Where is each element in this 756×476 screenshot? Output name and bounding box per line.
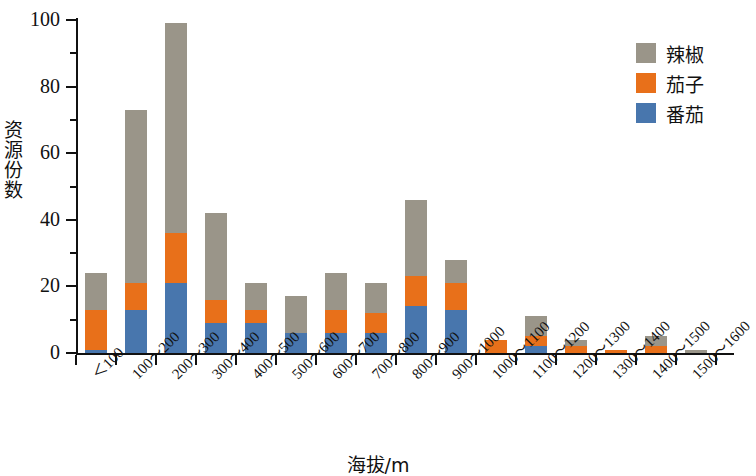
bar-segment-chili bbox=[125, 110, 147, 283]
stacked-bar-chart: 资源份数 020406080100 ＜100100～200200～300300～… bbox=[0, 0, 756, 476]
legend-item-1: 辣椒 bbox=[636, 38, 704, 68]
bar-segment-eggplant bbox=[405, 276, 427, 306]
bar-segment-chili bbox=[85, 273, 107, 310]
plot-area bbox=[76, 20, 716, 353]
bar-segment-chili bbox=[165, 23, 187, 233]
bar-segment-chili bbox=[205, 213, 227, 300]
bar-segment-chili bbox=[405, 200, 427, 277]
y-axis-tick bbox=[66, 352, 76, 354]
bar-segment-eggplant bbox=[245, 310, 267, 323]
y-axis-tick bbox=[66, 152, 76, 154]
bar-segment-eggplant bbox=[125, 283, 147, 310]
bar-segment-tomato bbox=[125, 310, 147, 353]
legend-swatch-icon bbox=[636, 103, 656, 123]
x-axis-tick bbox=[75, 355, 77, 365]
bar-segment-chili bbox=[445, 260, 467, 283]
legend-label: 茄子 bbox=[666, 70, 704, 97]
bar-2 bbox=[125, 110, 147, 353]
legend-item-2: 茄子 bbox=[636, 68, 704, 98]
bars-container bbox=[76, 20, 716, 353]
bar-segment-chili bbox=[365, 283, 387, 313]
bar-segment-eggplant bbox=[85, 310, 107, 350]
bar-segment-eggplant bbox=[445, 283, 467, 310]
bar-segment-chili bbox=[245, 283, 267, 310]
y-axis-tick-label: 60 bbox=[0, 142, 60, 162]
y-axis-tick-label: 0 bbox=[0, 342, 60, 362]
y-axis-tick-label: 80 bbox=[0, 76, 60, 96]
legend-label: 番茄 bbox=[666, 100, 704, 127]
y-axis-tick bbox=[66, 285, 76, 287]
y-axis-tick-label: 20 bbox=[0, 275, 60, 295]
y-axis-tick bbox=[66, 86, 76, 88]
legend-swatch-icon bbox=[636, 43, 656, 63]
legend-label: 辣椒 bbox=[666, 40, 704, 67]
legend-item-3: 番茄 bbox=[636, 98, 704, 128]
y-axis-tick bbox=[66, 219, 76, 221]
y-axis-tick-label: 100 bbox=[0, 9, 60, 29]
legend-swatch-icon bbox=[636, 73, 656, 93]
bar-1 bbox=[85, 273, 107, 353]
chart-legend: 辣椒茄子番茄 bbox=[636, 38, 704, 128]
y-axis-tick-label: 40 bbox=[0, 209, 60, 229]
bar-segment-eggplant bbox=[165, 233, 187, 283]
y-axis-tick bbox=[66, 19, 76, 21]
bar-segment-eggplant bbox=[205, 300, 227, 323]
x-axis-title: 海拔/m bbox=[0, 450, 756, 476]
bar-segment-chili bbox=[325, 273, 347, 310]
bar-3 bbox=[165, 23, 187, 353]
